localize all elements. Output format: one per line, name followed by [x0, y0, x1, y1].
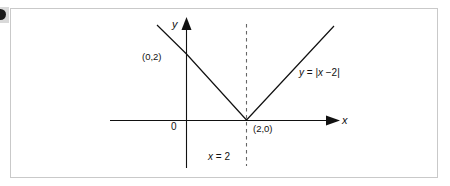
origin-label: 0: [171, 122, 177, 132]
vertical-line-label: x = 2: [208, 152, 230, 162]
equation-operator: = |: [304, 67, 318, 78]
point-label-y-intercept: (0,2): [142, 52, 162, 62]
point-label-vertex: (2,0): [253, 124, 273, 134]
equation-label: y = |x −2|: [299, 68, 340, 78]
bullet-dot-icon: [0, 9, 6, 20]
y-axis-label: y: [172, 19, 178, 30]
figure-page: y x 0 (0,2) (2,0) y = |x −2| x = 2: [0, 0, 450, 186]
x-axis-label: x: [342, 115, 348, 126]
bullet-marker: [0, 7, 9, 23]
equation-rhs: −2|: [323, 67, 340, 78]
vertical-line-value: = 2: [213, 151, 230, 162]
